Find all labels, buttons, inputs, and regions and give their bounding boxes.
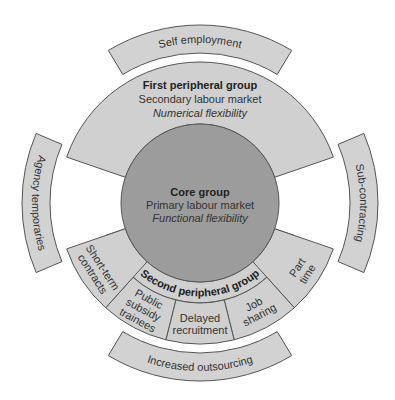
first-peripheral-line1: Secondary labour market bbox=[139, 93, 262, 105]
segment-label: Delayedrecruitment bbox=[172, 312, 227, 336]
flexible-firm-diagram: First peripheral group Secondary labour … bbox=[0, 0, 395, 400]
first-peripheral-title: First peripheral group bbox=[143, 79, 258, 91]
core-title: Core group bbox=[170, 186, 230, 198]
core-line2: Functional flexibility bbox=[152, 212, 249, 224]
core-line1: Primary labour market bbox=[146, 199, 254, 211]
first-peripheral-line2: Numerical flexibility bbox=[153, 107, 249, 119]
